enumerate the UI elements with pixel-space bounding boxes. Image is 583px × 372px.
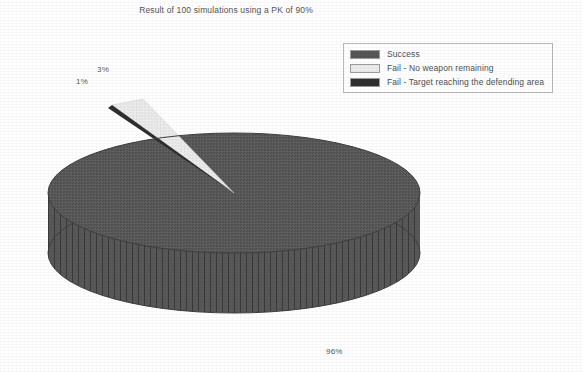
legend-label-target-reaching: Fail - Target reaching the defending are… <box>387 77 544 87</box>
legend-swatch-target-reaching <box>350 78 380 87</box>
pie-top-face <box>48 99 420 253</box>
data-label-no-weapon-remaining: 3% <box>97 65 109 74</box>
pie-chart-figure: Result of 100 simulations using a PK of … <box>0 0 583 372</box>
legend-item-success[interactable]: Success <box>344 47 552 61</box>
data-label-target-reaching: 1% <box>76 77 88 86</box>
legend-swatch-success <box>350 50 380 59</box>
legend-item-target-reaching[interactable]: Fail - Target reaching the defending are… <box>344 75 552 89</box>
legend-label-no-weapon-remaining: Fail - No weapon remaining <box>387 63 494 73</box>
chart-legend: Success Fail - No weapon remaining Fail … <box>343 43 553 93</box>
legend-swatch-no-weapon-remaining <box>350 64 380 73</box>
data-label-success: 96% <box>326 347 343 356</box>
legend-label-success: Success <box>387 49 420 59</box>
legend-item-no-weapon-remaining[interactable]: Fail - No weapon remaining <box>344 61 552 75</box>
